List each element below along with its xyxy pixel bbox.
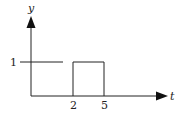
y-axis-label: y (27, 2, 35, 15)
y-tick-1: 1 (10, 56, 17, 69)
pulse-2-to-5 (73, 62, 104, 96)
x-tick-2: 2 (70, 99, 77, 112)
y-axis-arrowhead-icon (27, 16, 36, 28)
x-axis-arrowhead-icon (156, 92, 168, 101)
signal-diagram: y t 1 2 5 (0, 0, 182, 116)
x-axis-label: t (170, 90, 175, 103)
x-tick-5: 5 (101, 99, 108, 112)
